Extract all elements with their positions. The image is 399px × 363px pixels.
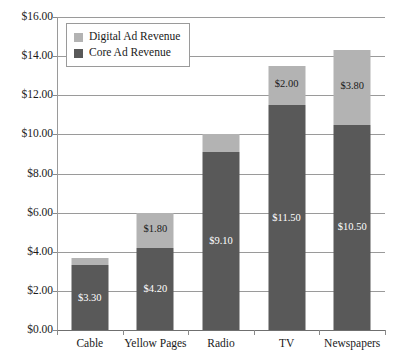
- x-axis-tick-mark: [57, 330, 58, 335]
- legend-swatch-icon: [74, 33, 83, 42]
- legend-swatch-icon: [74, 49, 83, 58]
- bar-value-label-core: $9.10: [202, 236, 239, 247]
- stacked-bar[interactable]: $0.90$9.10: [202, 134, 239, 330]
- bar-segment-core[interactable]: $9.10: [202, 152, 239, 330]
- y-axis-tick-label: $16.00: [1, 11, 53, 23]
- bar-value-label-digital: $2.00: [268, 79, 305, 90]
- bar-value-label-digital: $1.80: [137, 224, 174, 235]
- bar-segment-core[interactable]: $10.50: [334, 125, 371, 330]
- stacked-bar[interactable]: $3.80$10.50: [334, 50, 371, 330]
- y-axis-tick-label: $0.00: [1, 324, 53, 336]
- bar-value-label-digital: $3.80: [334, 81, 371, 92]
- bar-slot: $0.90$9.10: [188, 17, 254, 330]
- bar-value-label-core: $3.30: [71, 293, 108, 304]
- legend-item-label: Digital Ad Revenue: [89, 31, 180, 43]
- legend-item-label: Core Ad Revenue: [89, 47, 171, 59]
- bar-segment-core[interactable]: $4.20: [137, 248, 174, 330]
- x-axis-tick-mark: [188, 330, 189, 335]
- stacked-bar-chart: $0.00$2.00$4.00$6.00$8.00$10.00$12.00$14…: [0, 0, 399, 363]
- bar-segment-core[interactable]: $3.30: [71, 265, 108, 330]
- bar-segment-core[interactable]: $11.50: [268, 105, 305, 330]
- legend-item[interactable]: Core Ad Revenue: [74, 45, 180, 61]
- x-axis-line: [57, 330, 385, 331]
- x-axis-tick-mark: [319, 330, 320, 335]
- y-axis: $0.00$2.00$4.00$6.00$8.00$10.00$12.00$14…: [0, 0, 53, 363]
- legend-item[interactable]: Digital Ad Revenue: [74, 29, 180, 45]
- x-axis-category-label: Radio: [207, 337, 234, 350]
- stacked-bar[interactable]: $0.40$3.30: [71, 258, 108, 330]
- bar-segment-digital[interactable]: $0.40: [71, 258, 108, 266]
- y-axis-tick-label: $8.00: [1, 168, 53, 180]
- x-axis-tick-mark: [254, 330, 255, 335]
- x-axis-category-label: Yellow Pages: [124, 337, 186, 350]
- stacked-bar[interactable]: $2.00$11.50: [268, 66, 305, 330]
- bar-value-label-core: $10.50: [334, 222, 371, 233]
- stacked-bar[interactable]: $1.80$4.20: [137, 213, 174, 330]
- x-axis-category-label: TV: [279, 337, 294, 350]
- bar-segment-digital[interactable]: $2.00: [268, 66, 305, 105]
- bar-slot: $2.00$11.50: [254, 17, 320, 330]
- y-axis-tick-label: $2.00: [1, 285, 53, 297]
- x-axis-category-label: Newspapers: [324, 337, 380, 350]
- x-axis-category-label: Cable: [76, 337, 103, 350]
- x-axis-tick-mark: [385, 330, 386, 335]
- bar-segment-digital[interactable]: $0.90: [202, 134, 239, 152]
- y-axis-tick-label: $14.00: [1, 50, 53, 62]
- chart-legend: Digital Ad RevenueCore Ad Revenue: [66, 23, 190, 67]
- bar-segment-digital[interactable]: $1.80: [137, 213, 174, 248]
- y-axis-tick-label: $6.00: [1, 207, 53, 219]
- bar-value-label-core: $4.20: [137, 284, 174, 295]
- y-axis-tick-label: $12.00: [1, 90, 53, 102]
- bar-slot: $3.80$10.50: [319, 17, 385, 330]
- y-axis-tick-label: $4.00: [1, 246, 53, 258]
- x-axis-tick-mark: [123, 330, 124, 335]
- bar-segment-digital[interactable]: $3.80: [334, 50, 371, 124]
- y-axis-tick-label: $10.00: [1, 129, 53, 141]
- bar-value-label-core: $11.50: [268, 213, 305, 224]
